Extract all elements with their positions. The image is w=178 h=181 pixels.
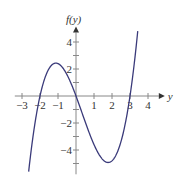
y-axis-label: f(y)	[66, 13, 82, 26]
x-axis-label: y	[167, 90, 173, 102]
y-tick-label: 2	[67, 63, 73, 75]
x-tick-label: −2	[34, 99, 46, 111]
x-axis-arrow-icon	[159, 93, 165, 99]
y-tick-label: 4	[67, 36, 73, 48]
x-tick-label: 2	[109, 99, 115, 111]
x-tick-label: 1	[91, 99, 97, 111]
y-tick-label: −2	[60, 117, 72, 129]
function-plot: −3−2−11234−4−224 y f(y)	[0, 0, 178, 181]
y-tick-label: −4	[60, 144, 72, 156]
x-tick-label: −1	[52, 99, 64, 111]
ticks: −3−2−11234−4−224	[16, 36, 151, 164]
x-tick-label: 4	[145, 99, 151, 111]
x-tick-label: −3	[16, 99, 28, 111]
y-axis-arrow-icon	[73, 27, 79, 33]
